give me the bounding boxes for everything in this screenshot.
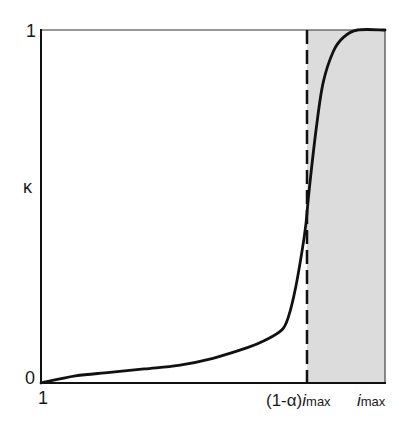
y-axis-label: κ [23, 178, 32, 196]
x-tick-threshold-sub: max [306, 394, 331, 409]
x-tick-threshold-prefix: (1-α) [266, 391, 302, 410]
y-tick-0: 0 [25, 369, 35, 387]
y-tick-1: 1 [26, 22, 36, 40]
x-tick-imax-sub: max [361, 394, 386, 409]
chart-canvas [0, 0, 409, 433]
x-tick-imax: imax [357, 392, 385, 409]
x-tick-threshold: (1-α)imax [266, 392, 331, 409]
shaded-region [307, 30, 385, 383]
x-tick-1: 1 [38, 389, 48, 407]
